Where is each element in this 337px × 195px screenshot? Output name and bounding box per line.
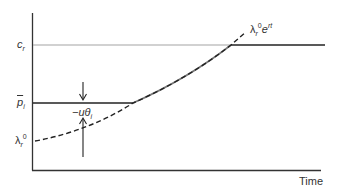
gap-prefix: −u xyxy=(72,106,85,118)
lambda-r0-tick-label: λr0 xyxy=(15,135,27,146)
x-axis-label: Time xyxy=(299,176,323,187)
curve-sub: r xyxy=(256,30,258,37)
rising-price-path xyxy=(133,45,231,103)
p-bar-i-tick-label: pi xyxy=(17,97,25,108)
exponential-curve xyxy=(35,32,246,141)
p-bar-sub: i xyxy=(23,103,25,110)
diagram-canvas xyxy=(0,0,337,195)
curve-exp-sup: rt xyxy=(268,22,272,29)
gap-label: −uθi xyxy=(72,107,92,118)
gap-sub: i xyxy=(91,113,93,120)
lambda-sub: r xyxy=(21,141,23,148)
curve-label: λr0ert xyxy=(250,24,272,35)
c-r-tick-label: cr xyxy=(17,39,25,50)
lambda-sup: 0 xyxy=(23,133,27,140)
c-r-sub: r xyxy=(23,45,25,52)
